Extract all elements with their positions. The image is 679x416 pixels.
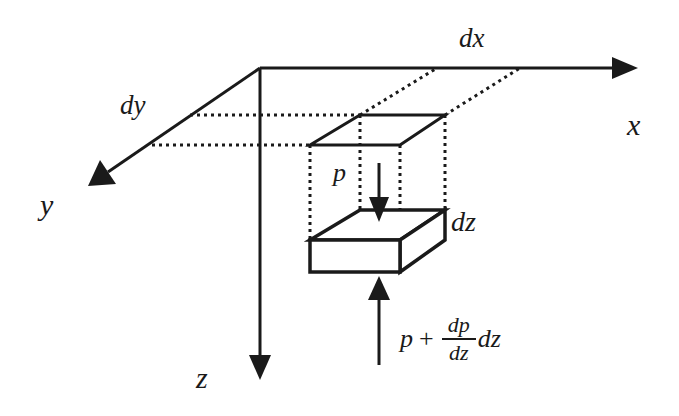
y-axis-label: y [40, 190, 53, 220]
y-axis-arrowhead [88, 160, 116, 186]
dy-label: dy [120, 92, 145, 119]
dx-label: dx [459, 25, 484, 52]
bottom-pressure-p: p [400, 326, 413, 352]
fraction-numerator: dp [448, 314, 470, 336]
diagram-graphics [0, 0, 679, 416]
x-axis-arrowhead [612, 57, 638, 79]
fluid-element-box [310, 210, 445, 272]
bottom-pressure-dz: dz [478, 326, 501, 352]
x-axis-label: x [627, 110, 640, 140]
fraction-denominator: dz [449, 342, 469, 364]
y-axis [108, 68, 260, 172]
bottom-pressure-arrowhead [368, 276, 390, 300]
pressure-gradient-fraction: dp dz [442, 314, 476, 364]
z-axis-arrowhead [249, 355, 271, 380]
top-pressure-label: p [333, 160, 346, 186]
bottom-pressure-plus: + [419, 326, 434, 352]
bottom-pressure-label: p + dp dz dz [400, 314, 501, 364]
pressure-element-diagram: dx x dy y z p dz p + dp dz dz [0, 0, 679, 416]
upper-face [310, 115, 445, 145]
dz-label: dz [451, 208, 476, 236]
z-axis-label: z [196, 363, 208, 393]
